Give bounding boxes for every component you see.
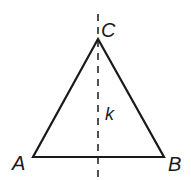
vertex-label-b: B: [168, 153, 181, 175]
vertex-label-a: A: [11, 152, 25, 174]
vertex-label-c: C: [101, 19, 116, 41]
diagram-canvas: A B C k: [0, 0, 191, 180]
axis-label-k: k: [105, 104, 115, 124]
triangle-diagram: A B C k: [0, 0, 191, 180]
